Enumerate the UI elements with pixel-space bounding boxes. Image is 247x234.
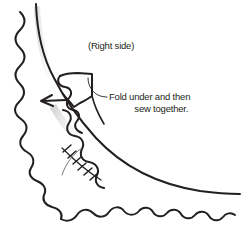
scalloped-bottom-edge <box>61 207 235 220</box>
sewing-diagram: (Right side) Fold under and then sew tog… <box>0 0 247 234</box>
label-right-side: (Right side) <box>88 40 134 52</box>
diagram-canvas <box>0 0 247 234</box>
folded-flap <box>60 73 92 107</box>
seam-shading <box>50 104 92 156</box>
label-fold-instruction-line-2: sew together. <box>109 103 190 115</box>
fold-direction-arrow <box>41 95 66 106</box>
label-fold-instruction-line-1: Fold under and then <box>109 91 190 103</box>
label-fold-instruction: Fold under and then sew together. <box>109 91 190 114</box>
flap-right-edge <box>92 96 104 124</box>
leader-line-to-stitches <box>62 148 82 175</box>
